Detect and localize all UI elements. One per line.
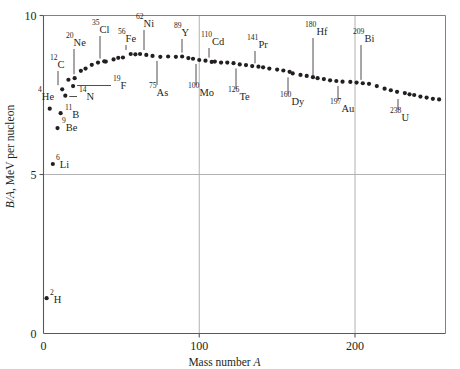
data-point: [90, 63, 94, 67]
data-point: [305, 74, 309, 78]
data-point: [55, 126, 59, 130]
data-point: [231, 61, 235, 65]
data-point: [361, 81, 365, 85]
nuclide-label-126Te: 126Te: [228, 85, 250, 102]
nuclide-label-209Bi: 209Bi: [353, 27, 374, 44]
data-point: [403, 91, 407, 95]
x-axis-title: Mass number A: [188, 356, 261, 368]
data-point: [311, 75, 315, 79]
data-point: [412, 93, 416, 97]
nuclide-label-12C: 12C: [50, 53, 65, 70]
data-point: [71, 84, 75, 88]
xtick-label-200: 200: [346, 339, 364, 353]
nuclide-label-6Li: 6Li: [56, 153, 69, 170]
nuclide-label-62Ni: 62Ni: [136, 12, 154, 29]
ytick-label-5: 5: [31, 168, 37, 182]
data-point: [261, 65, 265, 69]
data-point: [267, 67, 271, 71]
data-point: [437, 97, 441, 101]
data-point: [334, 79, 338, 83]
nuclide-label-20Ne: 20Ne: [66, 31, 86, 48]
data-point: [425, 95, 429, 99]
data-point: [83, 67, 87, 71]
xtick-label-0: 0: [41, 339, 47, 353]
data-point: [60, 87, 64, 91]
data-point: [158, 55, 162, 59]
chart-canvas: 01002000510 2H6Li9Be4He11B14N12C19F20Ne3…: [0, 0, 460, 369]
data-point: [354, 80, 358, 84]
data-point: [138, 52, 142, 56]
nuclide-label-141Pr: 141Pr: [247, 33, 268, 50]
data-point: [111, 57, 115, 61]
data-point: [133, 52, 137, 56]
data-point: [322, 77, 326, 81]
data-point: [382, 87, 386, 91]
data-point: [166, 54, 170, 58]
data-point: [150, 54, 154, 58]
nuclide-label-4He: 4He: [38, 85, 54, 102]
nuclide-label-14N: 14N: [79, 85, 95, 102]
data-point: [197, 58, 201, 62]
ytick-label-0: 0: [31, 327, 37, 341]
nuclide-label-89Y: 89Y: [174, 21, 190, 38]
data-point: [375, 84, 379, 88]
data-point: [174, 55, 178, 59]
data-point: [275, 67, 279, 71]
nuclide-labels: 2H6Li9Be4He11B14N12C19F20Ne35Cl56Fe62Ni7…: [38, 12, 409, 305]
data-point: [244, 63, 248, 67]
nuclide-label-197Au: 197Au: [330, 97, 355, 114]
data-point: [79, 69, 83, 73]
data-point: [116, 56, 120, 60]
data-point: [121, 55, 125, 59]
data-point: [340, 80, 344, 84]
data-point: [395, 90, 399, 94]
nuclide-label-75As: 75As: [149, 81, 168, 98]
data-point: [256, 65, 260, 69]
data-point: [48, 107, 52, 111]
data-point: [298, 73, 302, 77]
data-point: [316, 76, 320, 80]
data-point: [129, 52, 133, 56]
data-point: [144, 53, 148, 57]
nuclide-label-56Fe: 56Fe: [118, 27, 136, 44]
data-point: [59, 111, 63, 115]
ytick-label-10: 10: [25, 9, 37, 23]
data-point: [250, 64, 254, 68]
data-point: [73, 76, 77, 80]
nuclide-label-100Mo: 100Mo: [188, 81, 214, 98]
nuclide-label-11B: 11B: [65, 103, 79, 120]
data-point: [291, 71, 295, 75]
data-point: [104, 60, 108, 64]
nuclide-label-35Cl: 35Cl: [92, 18, 110, 35]
data-point: [180, 54, 184, 58]
data-point: [407, 92, 411, 96]
nuclide-label-19F: 19F: [113, 74, 127, 91]
data-point: [238, 62, 242, 66]
data-point: [45, 296, 49, 300]
data-point: [96, 60, 100, 64]
data-point: [328, 78, 332, 82]
nuclide-label-180Hf: 180Hf: [305, 20, 328, 37]
data-point: [367, 82, 371, 86]
data-point: [203, 59, 207, 63]
data-point: [225, 60, 229, 64]
data-point: [389, 88, 393, 92]
data-point: [418, 94, 422, 98]
data-point: [348, 80, 352, 84]
data-points: [45, 52, 442, 300]
data-point: [51, 162, 55, 166]
annotation-leader-lines: [58, 30, 398, 110]
binding-energy-figure: 01002000510 2H6Li9Be4He11B14N12C19F20Ne3…: [0, 0, 460, 369]
y-axis-title: B/A, MeV per nucleon: [4, 105, 17, 209]
axis-lines: [40, 16, 446, 338]
axis-titles: Mass number AB/A, MeV per nucleon: [4, 105, 262, 368]
data-point: [66, 78, 70, 82]
nuclide-label-160Dy: 160Dy: [280, 90, 305, 107]
data-point: [213, 60, 217, 64]
nuclide-label-110Cd: 110Cd: [201, 30, 225, 47]
nuclide-label-238U: 238U: [390, 106, 409, 123]
data-point: [191, 57, 195, 61]
data-point: [186, 56, 190, 60]
data-point: [431, 97, 435, 101]
data-point: [219, 60, 223, 64]
